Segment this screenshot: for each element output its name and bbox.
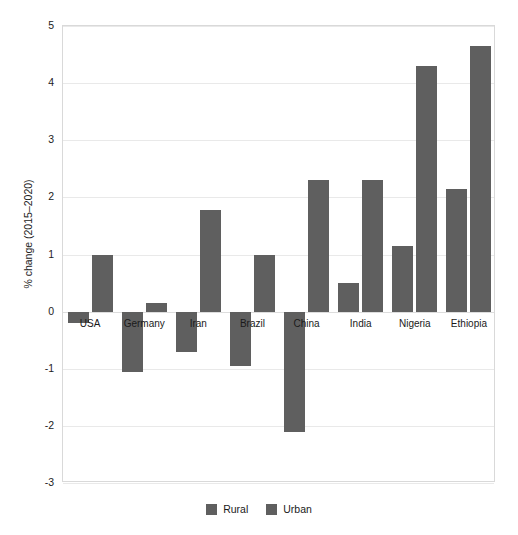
bar-germany-urban <box>146 303 167 312</box>
bar-ethiopia-rural <box>446 189 467 312</box>
legend-item-urban[interactable]: Urban <box>266 503 312 515</box>
bar-brazil-urban <box>254 255 275 312</box>
y-axis-tick-label: -2 <box>22 419 54 431</box>
x-axis-category-label: India <box>350 318 372 329</box>
bar-nigeria-rural <box>392 246 413 312</box>
x-axis-category-label: Ethiopia <box>451 318 487 329</box>
plot-area: USAGermanyIranBrazilChinaIndiaNigeriaEth… <box>62 25 495 482</box>
bar-china-rural <box>284 312 305 432</box>
y-axis-tick-label: -1 <box>22 362 54 374</box>
legend-swatch-icon <box>266 504 277 515</box>
gridline <box>63 483 494 484</box>
legend-label: Urban <box>283 503 312 515</box>
bar-india-rural <box>338 283 359 312</box>
chart-legend: RuralUrban <box>0 503 518 515</box>
gridline <box>63 426 494 427</box>
y-axis-tick-label: 5 <box>22 19 54 31</box>
bar-nigeria-urban <box>416 66 437 312</box>
x-axis-category-label: Nigeria <box>399 318 431 329</box>
chart-figure: % change (2015–2020) 543210-1-2-3 USAGer… <box>0 0 518 535</box>
legend-swatch-icon <box>206 504 217 515</box>
bar-usa-urban <box>92 255 113 312</box>
bar-iran-urban <box>200 210 221 312</box>
legend-item-rural[interactable]: Rural <box>206 503 248 515</box>
x-axis-category-label: USA <box>80 318 101 329</box>
y-axis-title: % change (2015–2020) <box>22 144 34 324</box>
bar-china-urban <box>308 180 329 311</box>
y-axis-tick-label: 4 <box>22 76 54 88</box>
legend-label: Rural <box>223 503 248 515</box>
x-axis-category-label: Brazil <box>240 318 265 329</box>
x-axis-category-label: Germany <box>124 318 165 329</box>
x-axis-category-label: China <box>293 318 319 329</box>
bar-india-urban <box>362 180 383 311</box>
bar-ethiopia-urban <box>470 46 491 312</box>
gridline <box>63 26 494 27</box>
y-axis-tick-label: -3 <box>22 476 54 488</box>
x-axis-category-label: Iran <box>190 318 207 329</box>
